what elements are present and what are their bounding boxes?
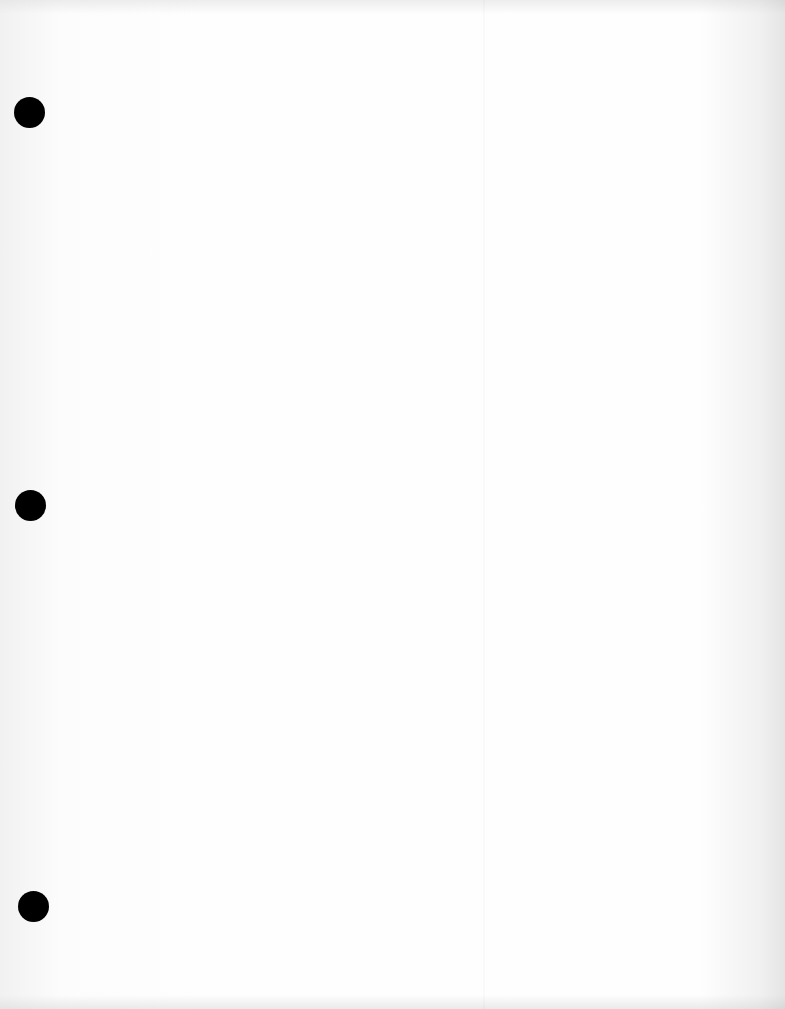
blank-paper-page [0,0,785,1009]
punch-hole-middle [15,490,46,521]
fold-line [483,0,485,1009]
punch-hole-top [14,97,45,128]
punch-hole-bottom [18,891,49,922]
